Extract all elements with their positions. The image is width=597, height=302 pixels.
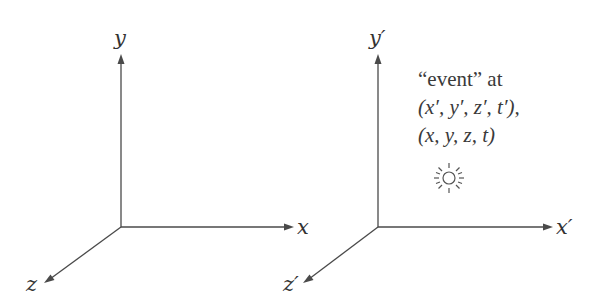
y-prime-axis-arrowhead	[375, 54, 382, 64]
event-caption: “event” at	[418, 67, 503, 91]
x-prime-axis-label: x′	[556, 215, 573, 239]
z-prime-axis-arrowhead	[303, 275, 314, 284]
z-prime-axis	[309, 227, 378, 279]
z-axis	[50, 227, 121, 279]
reference-frames-diagram: y x z y′ x′ z′ “event” at (x′, y′, z′, t…	[0, 0, 597, 302]
y-prime-axis-label: y′	[368, 26, 386, 50]
x-axis-label: x	[297, 215, 309, 239]
event-unprimed-coordinates: (x, y, z, t)	[418, 123, 495, 147]
y-axis-arrowhead	[118, 54, 125, 64]
event-primed-coordinates: (x′, y′, z′, t′),	[418, 95, 520, 119]
z-prime-axis-label: z′	[282, 272, 299, 296]
unprimed-frame: y x z	[25, 26, 309, 296]
x-axis-arrowhead	[284, 224, 294, 231]
z-axis-label: z	[25, 272, 38, 296]
z-axis-arrowhead	[44, 275, 55, 284]
event-annotation: “event” at (x′, y′, z′, t′), (x, y, z, t…	[418, 67, 520, 147]
y-axis-label: y	[113, 26, 127, 50]
sun-icon	[434, 163, 464, 193]
x-prime-axis-arrowhead	[543, 224, 553, 231]
